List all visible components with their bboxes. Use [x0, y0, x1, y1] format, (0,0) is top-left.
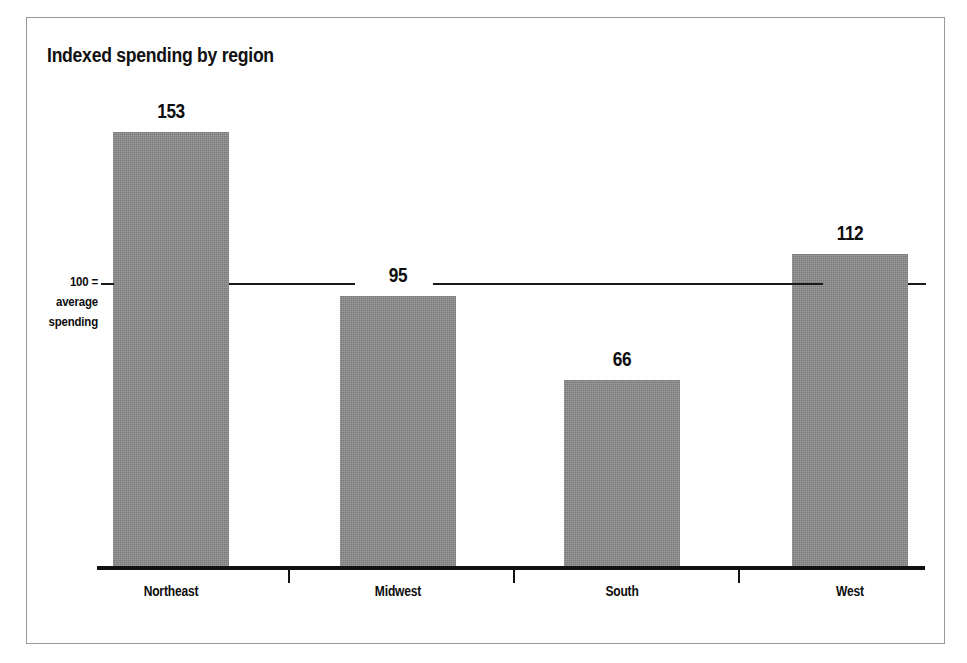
bar-value-label-south: 66	[581, 347, 663, 371]
reference-line-label-3: spending	[43, 312, 98, 332]
reference-line-annotation: 100 = average spending	[36, 272, 98, 332]
x-axis-label-west: West	[807, 583, 893, 599]
bar-midwest	[340, 296, 456, 566]
x-axis-label-south: South	[579, 583, 665, 599]
x-axis-tick-3	[738, 570, 740, 583]
reference-line-label-1: 100 =	[43, 272, 98, 292]
reference-line-segment-left	[229, 283, 355, 285]
reference-line-segment-right	[908, 283, 926, 285]
reference-line-label-2: average	[43, 292, 98, 312]
x-axis-tick-1	[288, 570, 290, 583]
x-axis-line	[97, 566, 925, 570]
bar-south	[564, 380, 680, 566]
x-axis-tick-2	[513, 570, 515, 583]
reference-line-tick	[101, 283, 114, 285]
plot-area: 153 95 66 112 100 = average spending Nor…	[0, 0, 967, 663]
chart-figure: Indexed spending by region 153 95 66 112…	[0, 0, 967, 663]
bar-value-label-midwest: 95	[357, 263, 439, 287]
bar-value-label-west: 112	[809, 221, 891, 245]
x-axis-label-midwest: Midwest	[355, 583, 441, 599]
bar-value-label-northeast: 153	[130, 99, 212, 123]
reference-line-segment-middle	[433, 283, 823, 285]
bar-northeast	[113, 132, 229, 566]
x-axis-label-northeast: Northeast	[128, 583, 214, 599]
bar-west	[792, 254, 908, 566]
